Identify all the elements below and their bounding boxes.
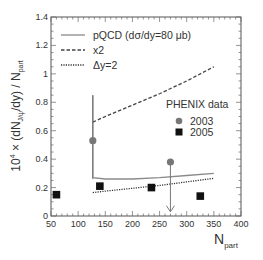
data-point-2005 (96, 182, 104, 190)
plot-markers (53, 95, 204, 212)
y-tick-label: 0.2 (35, 183, 48, 193)
x-tick-label: 400 (233, 219, 248, 229)
data-legend: PHENIX data20032005 (166, 98, 229, 138)
x-tick-label: 100 (71, 219, 86, 229)
legend-marker-circle (176, 118, 183, 125)
data-point-2005 (148, 184, 156, 192)
x-tick-label: 200 (125, 219, 140, 229)
legend-marker-square (176, 129, 183, 136)
y-tick-label: 1.4 (35, 12, 48, 22)
y-tick-label: 0 (43, 211, 48, 221)
data-point-2005 (53, 191, 61, 199)
y-tick-label: 1.2 (35, 40, 48, 50)
y-tick-label: 0.8 (35, 97, 48, 107)
legend-label-2005: 2005 (190, 126, 214, 138)
svg-text:Npart: Npart (214, 231, 239, 250)
chart: 5010015020025030035040000.20.40.60.811.2… (0, 0, 263, 260)
legend-label: Δy=2 (93, 59, 117, 71)
x-tick-label: 300 (179, 219, 194, 229)
data-legend-title: PHENIX data (166, 98, 229, 110)
svg-text:104 × (dNJ/ψ/dy) / Npart: 104 × (dNJ/ψ/dy) / Npart (9, 60, 25, 172)
legend-label: pQCD (dσ/dy=80 μb) (93, 29, 191, 41)
data-point-2003 (89, 137, 96, 144)
x-tick-label: 150 (98, 219, 113, 229)
x-axis-title: Npart (214, 231, 239, 250)
y-tick-label: 0.4 (35, 154, 48, 164)
legend-label: x2 (93, 44, 104, 56)
legend: pQCD (dσ/dy=80 μb)x2Δy=2 (61, 29, 191, 71)
curve-dashed (93, 67, 214, 122)
x-tick-label: 350 (206, 219, 221, 229)
x-tick-label: 250 (152, 219, 167, 229)
data-point-2005 (196, 192, 204, 200)
y-tick-label: 1 (43, 69, 48, 79)
data-point-2003 (167, 158, 174, 165)
y-axis-title: 104 × (dNJ/ψ/dy) / Npart (9, 60, 25, 172)
y-tick-label: 0.6 (35, 126, 48, 136)
plot-axes: 5010015020025030035040000.20.40.60.811.2… (35, 12, 248, 229)
